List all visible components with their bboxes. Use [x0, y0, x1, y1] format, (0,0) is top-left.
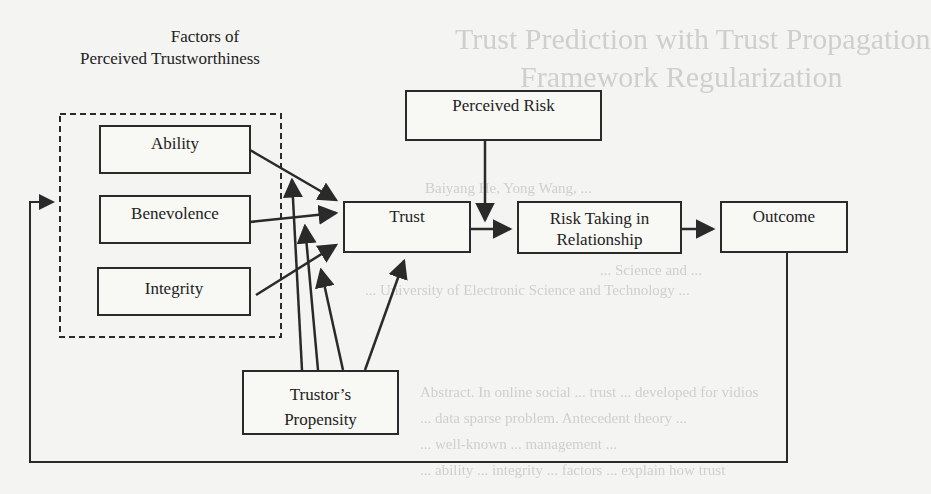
- edge-propensity-trust: [365, 261, 404, 370]
- node-perceived-risk: Perceived Risk: [405, 90, 602, 141]
- node-integrity: Integrity: [97, 267, 251, 316]
- node-risk-taking: Risk Taking in Relationship: [517, 201, 682, 254]
- node-perceived-risk-label: Perceived Risk: [452, 95, 554, 116]
- node-integrity-label: Integrity: [145, 278, 204, 299]
- group-title-line-2: Perceived Trustworthiness: [55, 48, 285, 69]
- edge-propensity-ability: [292, 180, 302, 370]
- node-risk-taking-label-2: Relationship: [557, 229, 643, 250]
- node-ability: Ability: [99, 125, 251, 174]
- edge-propensity-benevolence: [305, 226, 318, 370]
- node-benevolence: Benevolence: [99, 195, 251, 244]
- node-outcome-label: Outcome: [753, 206, 815, 227]
- node-ability-label: Ability: [151, 133, 199, 154]
- node-propensity-label-1: Trustor’s: [290, 382, 351, 407]
- node-outcome: Outcome: [720, 201, 848, 253]
- node-risk-taking-label-1: Risk Taking in: [550, 208, 650, 229]
- group-title-line-1: Factors of: [150, 26, 260, 47]
- node-trust: Trust: [343, 201, 471, 253]
- edge-propensity-integrity: [321, 270, 343, 370]
- node-trustor-propensity: Trustor’s Propensity: [242, 370, 399, 435]
- node-trust-label: Trust: [389, 206, 424, 227]
- node-propensity-label-2: Propensity: [284, 407, 357, 432]
- node-benevolence-label: Benevolence: [131, 203, 219, 224]
